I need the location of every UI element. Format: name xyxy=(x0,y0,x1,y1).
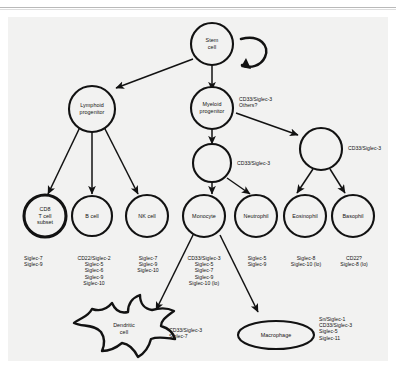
node-label-nkcell: NK cell xyxy=(127,213,167,220)
lineage-diagram-svg xyxy=(8,17,388,361)
page-rule-top xyxy=(0,7,396,8)
annotation-monocyte: CD33/Siglec-3 Siglec-5 Siglec-7 Siglec-9… xyxy=(171,255,237,286)
edge-right-blank-to-eosinophil xyxy=(297,169,313,193)
node-right-blank xyxy=(300,128,342,170)
annotation-eosinophil: Siglec-8 Siglec-10 (lo) xyxy=(280,255,332,267)
edge-label-mid-blank: CD33/Siglec-3 xyxy=(237,160,270,166)
edge-label-myeloid-to-right-blank: CD33/Siglec-3 Others? xyxy=(239,96,272,108)
annotation-basophil: CD22? Siglec-8 (lo) xyxy=(330,255,378,267)
edge-lymphoid-to-nkcell xyxy=(103,125,138,194)
edge-lymphoid-to-cd8 xyxy=(48,125,81,194)
node-shape-group xyxy=(24,23,374,357)
edge-mid-blank-to-neutrophil xyxy=(227,178,250,194)
node-label-myeloid: Myeloid progenitor xyxy=(188,101,236,114)
annotation-bcell: CD22/Siglec-2 Siglec-5 Siglec-6 Siglec-9… xyxy=(66,255,122,286)
annotation-cd8: Siglec-7 Siglec-9 xyxy=(24,255,43,267)
annotation-neutrophil: Siglec-5 Siglec-9 xyxy=(236,255,278,267)
node-label-stem: Stem cell xyxy=(192,37,232,50)
edge-right-blank-to-basophil xyxy=(330,169,345,193)
edge-stem-to-lymphoid xyxy=(116,59,193,88)
annotation-nkcell: Siglec-7 Siglec-9 Siglec-10 xyxy=(125,255,171,274)
node-label-monocyte: Monocyte xyxy=(182,213,226,220)
lineage-diagram-panel: Stem cell Lymphoid progenitor Myeloid pr… xyxy=(8,17,388,361)
annotation-macrophage: Sn/Siglec-1 CD33/Siglec-3 Siglec-5 Sigle… xyxy=(319,316,352,341)
annotation-dendritic: CD33/Siglec-3 Siglec-7 xyxy=(169,327,202,339)
self-renewal-arrow-icon xyxy=(241,38,266,69)
node-mid-blank xyxy=(193,144,231,182)
node-label-bcell: B cell xyxy=(72,213,112,220)
edge-label-right-blank: CD33/Siglec-3 xyxy=(348,145,381,151)
node-label-cd8: CD8 T cell subset xyxy=(25,206,65,226)
node-label-neutrophil: Neutrophil xyxy=(234,213,278,220)
page-rule-top-hairline xyxy=(0,9,396,10)
node-label-lymphoid: Lymphoid progenitor xyxy=(68,102,116,115)
node-label-basophil: Basophil xyxy=(331,213,375,220)
node-label-macrophage: Macrophage xyxy=(254,332,298,339)
node-label-dendritic: Dendritic cell xyxy=(102,322,146,335)
edge-myeloid-to-right-blank xyxy=(236,113,298,135)
figure-page: Stem cell Lymphoid progenitor Myeloid pr… xyxy=(0,0,396,369)
node-label-eosinophil: Eosinophil xyxy=(283,213,327,220)
